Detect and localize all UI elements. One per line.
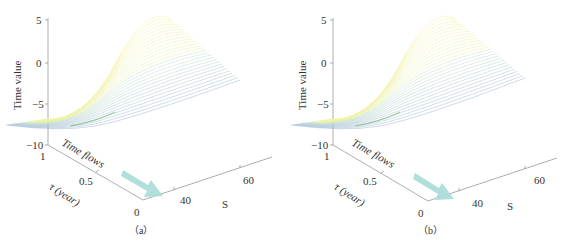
s-tick-60: 60 [534,175,545,186]
s-tick-40: 40 [180,195,191,206]
s-axis-label: S [222,199,228,210]
z-tick-minus5: −5 [317,99,329,110]
z-tick-5: 5 [36,15,42,26]
z-tick-0: 0 [321,58,327,69]
tau-tick-1: 1 [324,151,330,162]
tau-tick-0: 0 [134,207,140,218]
z-tick-5: 5 [321,15,327,26]
chart-panel-a: 5 0 −5 −10 Time value 1 0.5 0 τ (year) T… [0,0,281,243]
s-tick-40: 40 [472,198,483,209]
tau-tick-0-5: 0.5 [79,176,93,187]
plot-area-a [0,0,281,243]
s-tick-60: 60 [243,175,254,186]
z-axis-label: Time value [296,61,308,110]
z-tick-0: 0 [36,58,42,69]
caption-a: （a） [129,222,153,237]
tau-tick-0: 0 [418,208,424,219]
caption-b: （b） [418,222,443,237]
tau-tick-1: 1 [40,151,46,162]
time-flows-arrow [121,170,163,197]
z-axis-label: Time value [11,61,23,110]
z-tick-minus5: −5 [32,99,44,110]
chart-panel-b: 5 0 −5 −10 Time value 1 0.5 0 τ (year) T… [281,0,562,243]
s-axis-label: S [507,201,513,212]
tau-tick-0-5: 0.5 [363,176,377,187]
